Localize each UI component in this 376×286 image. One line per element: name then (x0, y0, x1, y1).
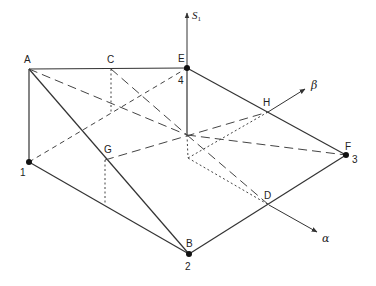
label-E: E (178, 54, 185, 64)
diagram-canvas: A C E 4 H F 3 G 1 D B 2 S1 β α (0, 0, 376, 286)
label-C: C (107, 55, 114, 65)
label-B: B (186, 239, 193, 249)
point-F-dot (343, 152, 349, 158)
axis-alpha (269, 205, 317, 232)
label-A: A (24, 55, 31, 65)
edge-E-F (187, 68, 346, 155)
dash-O-D (187, 135, 269, 205)
dash-A-O (29, 69, 187, 135)
axis-beta (268, 89, 305, 112)
edge-A-B (29, 69, 189, 254)
label-H: H (263, 98, 270, 108)
label-s1-axis: S1 (192, 10, 201, 23)
label-beta-axis: β (311, 80, 317, 91)
label-F: F (345, 142, 351, 152)
label-D: D (264, 191, 271, 201)
dot-O-down (187, 135, 188, 158)
point-B-dot (186, 251, 192, 257)
label-2: 2 (185, 262, 191, 272)
dot-Olow-H (188, 112, 268, 158)
axes (187, 13, 317, 232)
dash-C-O (111, 69, 187, 135)
dot-Olow-D (188, 158, 269, 205)
label-4: 4 (178, 76, 184, 86)
edge-A-E (29, 68, 187, 69)
s1-axis-subscript: 1 (198, 15, 202, 23)
label-alpha-axis: α (322, 233, 329, 244)
label-1: 1 (20, 168, 26, 178)
solid-edges (29, 68, 346, 254)
edge-1-B (29, 162, 189, 254)
point-E-dot (184, 65, 190, 71)
label-G: G (104, 145, 112, 155)
label-3: 3 (352, 155, 358, 165)
point-1-dot (26, 159, 32, 165)
dash-O-F (187, 135, 346, 155)
